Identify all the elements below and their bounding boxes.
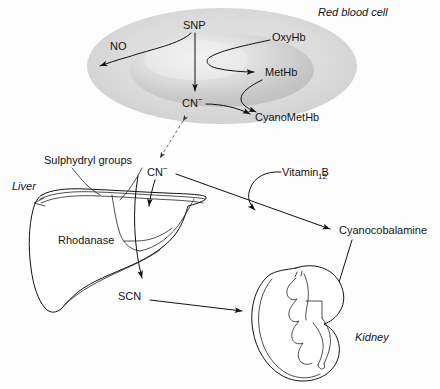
kidney-group — [252, 266, 344, 381]
cn-rbc-charge: − — [198, 95, 203, 104]
arrow-scn-to-kidney — [150, 300, 242, 311]
snp-label: SNP — [183, 19, 206, 31]
liver-label: Liver — [12, 180, 37, 192]
kidney-label: Kidney — [355, 331, 390, 343]
cn-tissue-label: CN — [147, 166, 163, 178]
kidney-outline — [252, 266, 344, 381]
rbc-highlight — [144, 40, 248, 80]
vitamin-b12-label-group: Vitamin B 12 — [282, 166, 329, 181]
sulphydryl-groups-label: Sulphydryl groups — [44, 154, 133, 166]
oxyhb-label: OxyHb — [272, 31, 306, 43]
arrow-vitaminb12-to-pathway — [249, 172, 281, 210]
red-blood-cell-label: Red blood cell — [318, 6, 388, 18]
cyanocobalamine-label: Cyanocobalamine — [339, 224, 427, 236]
vitamin-b12-subscript: 12 — [318, 172, 327, 181]
scn-label: SCN — [118, 290, 141, 302]
red-blood-cell-group — [87, 8, 357, 124]
rhodanase-label: Rhodanase — [58, 234, 114, 246]
pathway-diagram: Red blood cell SNP NO OxyHb MetHb CN − C… — [0, 0, 440, 389]
methb-label: MetHb — [265, 66, 297, 78]
no-label: NO — [110, 40, 127, 52]
cn-rbc-label: CN — [182, 97, 198, 109]
cn-transport-connector — [160, 121, 183, 158]
cn-tissue-label-group: CN − — [147, 164, 168, 178]
cyanomethb-label: CyanoMetHb — [255, 111, 319, 123]
cn-tissue-charge: − — [163, 164, 168, 173]
figure-canvas: Red blood cell SNP NO OxyHb MetHb CN − C… — [0, 0, 440, 389]
